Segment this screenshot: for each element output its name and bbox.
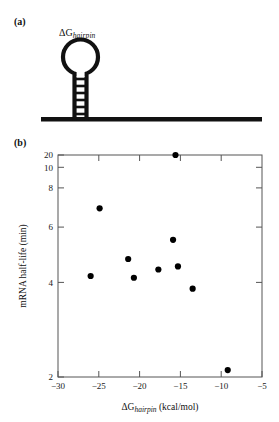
x-axis-title-base: ΔG [121, 402, 134, 412]
scatter-chart: −30 −25 −20 −15 −10 −5 2 4 6 8 10 20 ΔGh… [0, 135, 279, 422]
y-tick-label: 10 [44, 163, 54, 173]
x-tick-label: −20 [133, 381, 148, 391]
x-axis-title: ΔGhairpin (kcal/mol) [121, 402, 198, 414]
data-point [225, 367, 231, 373]
hairpin-loop-stem-junction [77, 68, 85, 77]
x-tick-label: −15 [173, 381, 188, 391]
data-point [170, 237, 176, 243]
x-tick-label: −30 [51, 381, 66, 391]
x-tick-label: −5 [257, 381, 267, 391]
y-tick-label: 6 [49, 222, 54, 232]
x-axis-title-units: (kcal/mol) [157, 402, 199, 413]
data-point [190, 286, 196, 292]
y-axis-title: mRNA half-life (min) [18, 224, 29, 307]
x-tick-label: −25 [92, 381, 107, 391]
data-point [125, 256, 131, 262]
hairpin-stem-rungs [75, 79, 86, 114]
y-axis-ticks-left [58, 155, 64, 377]
plot-frame [58, 155, 262, 377]
y-axis-ticks-right [256, 167, 262, 282]
y-tick-label: 2 [49, 372, 54, 382]
x-axis-title-subscript: hairpin [134, 405, 156, 414]
data-point [175, 263, 181, 269]
data-point [172, 152, 178, 158]
data-point [131, 275, 137, 281]
panel-b-scatter-plot: (b) [0, 135, 279, 422]
rna-hairpin-illustration [0, 0, 279, 135]
x-axis-ticks-bottom [58, 371, 262, 377]
x-axis-ticks-top [99, 155, 221, 161]
y-tick-label: 8 [49, 183, 54, 193]
y-tick-label: 20 [44, 150, 54, 160]
panel-a-hairpin: (a) ΔGhairpin [0, 0, 279, 135]
data-point [155, 266, 161, 272]
data-point [97, 205, 103, 211]
x-tick-label: −10 [214, 381, 229, 391]
data-points-group [88, 152, 231, 373]
data-point [88, 273, 94, 279]
y-tick-label: 4 [49, 278, 54, 288]
